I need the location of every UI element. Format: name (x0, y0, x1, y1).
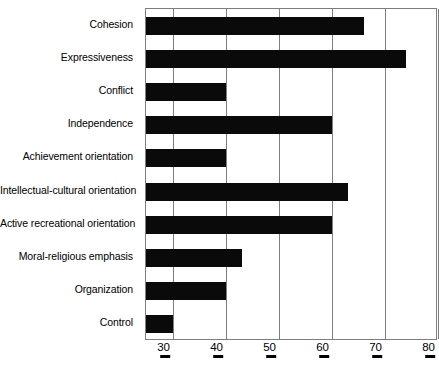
x-tick-underline (425, 355, 435, 358)
category-axis: CohesionExpressivenessConflictIndependen… (0, 8, 139, 340)
bar (146, 249, 242, 267)
bar-chart: CohesionExpressivenessConflictIndependen… (0, 0, 439, 374)
bar (146, 50, 406, 68)
x-tick-label: 40 (210, 341, 226, 354)
category-label: Conflict (0, 85, 133, 96)
category-label: Achievement orientation (0, 151, 133, 162)
x-tick-label: 50 (263, 341, 279, 354)
x-tick-60: 60 (316, 341, 332, 358)
bar (146, 116, 332, 134)
bar (146, 83, 226, 101)
x-tick-40: 40 (210, 341, 226, 358)
category-label: Cohesion (0, 19, 133, 30)
category-label: Expressiveness (0, 52, 133, 63)
x-tick-50: 50 (263, 341, 279, 358)
bar (146, 183, 348, 201)
value-axis: 304050607080 (145, 341, 437, 371)
x-tick-label: 60 (316, 341, 332, 354)
category-label: Independence (0, 118, 133, 129)
bar (146, 216, 332, 234)
x-tick-label: 30 (157, 341, 173, 354)
x-tick-80: 80 (422, 341, 438, 358)
x-tick-underline (372, 355, 382, 358)
category-label: Intellectual-cultural orientation (0, 185, 133, 196)
x-tick-70: 70 (369, 341, 385, 358)
plot-area (145, 8, 437, 340)
category-label: Active recreational orientation (0, 218, 133, 229)
category-label: Control (0, 317, 133, 328)
x-tick-underline (160, 355, 170, 358)
bars-layer (146, 9, 436, 339)
x-tick-label: 70 (369, 341, 385, 354)
category-label: Organization (0, 284, 133, 295)
bar (146, 17, 364, 35)
category-label: Moral-religious emphasis (0, 251, 133, 262)
x-tick-underline (213, 355, 223, 358)
bar (146, 149, 226, 167)
x-tick-30: 30 (157, 341, 173, 358)
bar (146, 315, 173, 333)
x-tick-underline (319, 355, 329, 358)
bar (146, 282, 226, 300)
x-tick-underline (266, 355, 276, 358)
x-tick-label: 80 (422, 341, 438, 354)
